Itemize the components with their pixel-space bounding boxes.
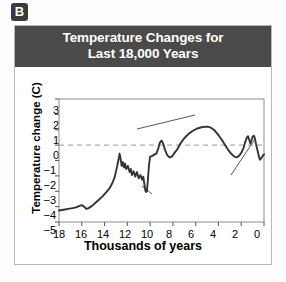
chart-title-line-2: Last 18,000 Years (15, 46, 271, 62)
figure-card: Temperature Changes for Last 18,000 Year… (14, 25, 272, 265)
chart-title-banner: Temperature Changes for Last 18,000 Year… (15, 26, 271, 67)
y-axis-ticks (55, 99, 59, 222)
plot-area (15, 67, 271, 264)
x-axis-ticks (59, 222, 264, 226)
figure-root: B Temperature Changes for Last 18,000 Ye… (0, 0, 286, 282)
chart-title-line-1: Temperature Changes for (15, 30, 271, 46)
plot-frame (59, 99, 264, 222)
chart-region: Temperature change (C) Thousands of year… (15, 67, 271, 264)
panel-badge: B (11, 3, 28, 21)
